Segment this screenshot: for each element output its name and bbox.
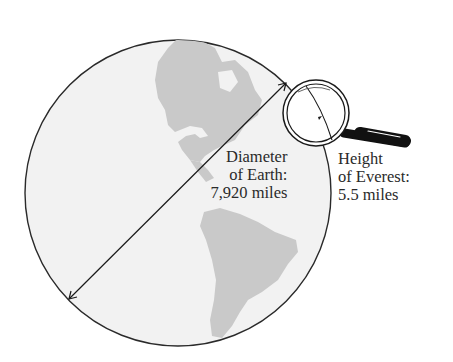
diameter-label-line-1: Diameter [186,148,287,166]
diameter-label-line-2: of Earth: [186,166,287,184]
everest-height-label: Height of Everest: 5.5 miles [338,150,410,204]
diameter-value: 7,920 miles [186,184,287,202]
earth-diameter-label: Diameter of Earth: 7,920 miles [186,148,287,202]
magnifying-glass-icon [283,80,405,146]
everest-label-line-1: Height [338,150,410,168]
everest-value: 5.5 miles [338,186,410,204]
everest-label-line-2: of Everest: [338,168,410,186]
